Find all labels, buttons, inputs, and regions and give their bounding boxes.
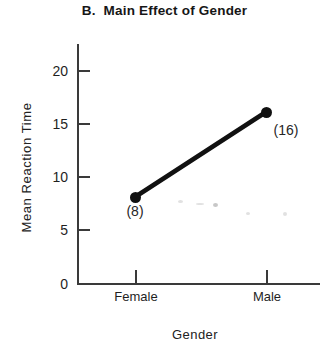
scan-artifact [283, 212, 287, 216]
data-point-female [130, 192, 141, 203]
y-tick-label-5-wrap: 5 [34, 223, 68, 237]
y-tick-5 [79, 229, 90, 231]
data-point-male [261, 107, 272, 118]
scan-artifact [246, 212, 250, 215]
scan-artifact [213, 203, 218, 207]
y-tick-15 [79, 123, 90, 125]
y-tick-label-15-wrap: 15 [34, 117, 68, 131]
y-axis-line [77, 44, 79, 285]
y-tick-label-0: 0 [34, 277, 68, 291]
y-tick-20 [79, 70, 90, 72]
y-tick-label-20-wrap: 20 [34, 64, 68, 78]
plot-area: 20 15 10 5 0 Female Male (8) (16 [0, 0, 329, 359]
scan-artifact [196, 203, 204, 205]
x-tick-male [266, 270, 268, 283]
y-tick-label-15: 15 [34, 117, 68, 131]
x-tick-label-female: Female [91, 289, 181, 304]
y-tick-label-5: 5 [34, 223, 68, 237]
y-tick-label-10: 10 [34, 170, 68, 184]
x-tick-label-male: Male [222, 289, 312, 304]
y-tick-label-0-wrap: 0 [34, 277, 68, 291]
data-point-label-male: (16) [251, 122, 321, 138]
data-point-label-female: (8) [100, 203, 170, 219]
x-axis-line [77, 283, 320, 285]
scan-artifact [178, 200, 183, 203]
x-axis-label: Gender [70, 327, 320, 342]
y-tick-10 [79, 176, 90, 178]
chart-figure: B. Main Effect of Gender Mean Reaction T… [0, 0, 329, 359]
y-tick-label-10-wrap: 10 [34, 170, 68, 184]
x-tick-female [135, 270, 137, 283]
y-tick-label-20: 20 [34, 64, 68, 78]
